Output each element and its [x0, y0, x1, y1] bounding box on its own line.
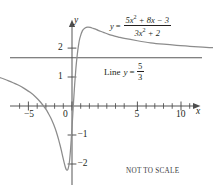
- x-tick-label-5: 5: [135, 110, 140, 120]
- line-label-denominator: 3: [137, 72, 144, 82]
- x-tick-label-10: 10: [176, 110, 186, 120]
- equation-fraction: 5x2 + 8x − 3 3x2 + 2: [124, 14, 171, 37]
- y-tick-label-1: 1: [58, 72, 63, 82]
- x-tick-label-minus5: −5: [24, 110, 34, 120]
- numerator-term-b: + 8x − 3: [137, 15, 169, 25]
- function-curve: [0, 27, 213, 170]
- line-label-fraction: 5 3: [137, 61, 144, 82]
- plot-canvas: [0, 0, 213, 191]
- y-axis-label: y: [74, 16, 78, 26]
- line-label-equals: =: [130, 67, 135, 77]
- equation-lhs: y: [110, 21, 114, 31]
- y-tick-label-minus2: −2: [78, 159, 88, 169]
- not-to-scale-note: NOT TO SCALE: [126, 168, 179, 175]
- equation-denominator: 3x2 + 2: [133, 26, 162, 37]
- denominator-term-a: 3x: [135, 27, 143, 37]
- y-tick-label-2: 2: [58, 43, 63, 53]
- equation-annotation: y = 5x2 + 8x − 3 3x2 + 2: [110, 14, 171, 37]
- x-axis-label: x: [196, 107, 200, 117]
- equation-equals: =: [116, 21, 121, 31]
- graph-figure: −5 0 5 10 2 1 −1 −2 x y y = 5x2 + 8x − 3…: [0, 0, 213, 191]
- numerator-term-a: 5x: [126, 15, 134, 25]
- line-label-var: y: [124, 67, 128, 77]
- asymptote-annotation: Line y = 5 3: [104, 61, 144, 82]
- y-tick-label-minus1: −1: [78, 130, 88, 140]
- line-label-numerator: 5: [137, 61, 144, 71]
- denominator-term-b: + 2: [146, 27, 160, 37]
- line-label-text: Line: [104, 67, 121, 77]
- equation-numerator: 5x2 + 8x − 3: [124, 14, 171, 25]
- x-tick-label-0: 0: [63, 110, 68, 120]
